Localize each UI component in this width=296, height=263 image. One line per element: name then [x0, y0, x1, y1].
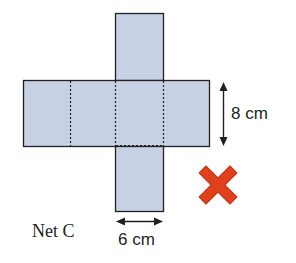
height-label: 8 cm: [231, 104, 268, 124]
height-dimension-arrow: [220, 82, 228, 146]
net-label: Net C: [32, 221, 75, 242]
net-face-bottom: [116, 147, 164, 212]
width-dimension-arrow: [116, 218, 163, 226]
net-face-top: [116, 14, 164, 81]
cross-icon: [187, 154, 249, 216]
net-face-middle-row: [24, 81, 210, 147]
width-label: 6 cm: [118, 230, 155, 250]
